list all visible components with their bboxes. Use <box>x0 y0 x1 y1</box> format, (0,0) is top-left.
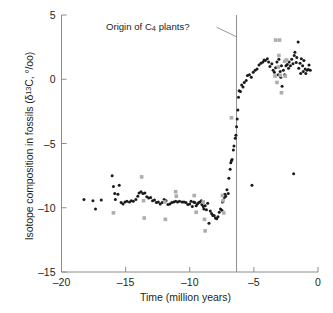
data-point-square <box>192 194 196 198</box>
data-point-circle <box>270 62 273 65</box>
origin-annotation: Origin of C4 plants? <box>106 21 190 33</box>
data-point-circle <box>234 137 237 140</box>
data-point-circle <box>143 191 146 194</box>
data-point-square <box>230 116 234 120</box>
data-point-circle <box>250 76 253 79</box>
data-point-circle <box>299 72 302 75</box>
data-point-square <box>203 218 207 222</box>
series-gray-squares <box>112 38 289 232</box>
data-point-circle <box>277 58 280 61</box>
data-point-circle <box>207 222 210 225</box>
data-point-square <box>140 175 144 179</box>
data-point-circle <box>236 118 239 121</box>
data-point-circle <box>250 184 253 187</box>
data-point-circle <box>290 58 293 61</box>
x-tick-label: –15 <box>117 276 135 288</box>
data-point-square <box>174 190 178 194</box>
data-point-circle <box>287 67 290 70</box>
y-tick-label: –5 <box>44 138 56 150</box>
data-point-square <box>163 200 167 204</box>
data-point-circle <box>273 71 276 74</box>
data-point-circle <box>100 199 103 202</box>
data-point-circle <box>301 64 304 67</box>
data-point-circle <box>286 63 289 66</box>
data-point-square <box>221 194 225 198</box>
data-point-square <box>174 194 178 198</box>
data-point-circle <box>229 168 232 171</box>
data-point-circle <box>82 198 85 201</box>
data-point-circle <box>293 51 296 54</box>
data-point-circle <box>300 57 303 60</box>
x-tick-label: –5 <box>248 276 260 288</box>
data-point-circle <box>241 85 244 88</box>
data-point-circle <box>118 184 121 187</box>
data-point-circle <box>114 198 117 201</box>
data-point-circle <box>280 64 283 67</box>
data-point-square <box>285 58 289 62</box>
data-point-circle <box>282 69 285 72</box>
data-point-square <box>273 74 277 78</box>
data-point-circle <box>136 195 139 198</box>
data-point-circle <box>267 60 270 63</box>
data-point-circle <box>308 64 311 67</box>
data-point-square <box>142 199 146 203</box>
data-point-circle <box>239 90 242 93</box>
x-tick-label: 0 <box>315 276 321 288</box>
data-point-circle <box>125 200 128 203</box>
data-point-circle <box>132 200 135 203</box>
annotation-leader-line <box>217 27 237 37</box>
data-point-square <box>221 199 225 203</box>
data-point-circle <box>218 211 221 214</box>
data-point-square <box>277 54 281 58</box>
data-point-circle <box>235 125 238 128</box>
data-point-circle <box>206 202 209 205</box>
data-point-square <box>274 38 278 42</box>
data-point-circle <box>281 85 284 88</box>
data-point-circle <box>232 145 235 148</box>
data-point-circle <box>190 200 193 203</box>
data-point-circle <box>236 109 239 112</box>
data-point-circle <box>302 59 305 62</box>
data-point-square <box>283 74 287 78</box>
data-point-circle <box>149 196 152 199</box>
data-point-circle <box>289 64 292 67</box>
data-point-circle <box>209 209 212 212</box>
data-point-circle <box>297 40 300 43</box>
data-point-circle <box>295 56 298 59</box>
data-point-square <box>276 65 280 69</box>
data-point-circle <box>113 192 116 195</box>
data-point-circle <box>94 208 97 211</box>
x-axis-label-text: Time (million years) <box>102 291 231 303</box>
data-point-circle <box>191 205 194 208</box>
data-point-circle <box>279 70 282 73</box>
data-point-square <box>278 38 282 42</box>
data-point-circle <box>213 214 216 217</box>
data-point-circle <box>202 208 205 211</box>
scatter-plot: –20–15–10–50–15–10–505 <box>0 0 333 313</box>
data-point-circle <box>292 172 295 175</box>
data-point-circle <box>204 204 207 207</box>
data-point-circle <box>234 134 237 137</box>
data-point-circle <box>111 174 114 177</box>
data-point-square <box>142 216 146 220</box>
data-point-circle <box>116 193 119 196</box>
y-tick-label: –10 <box>38 202 56 214</box>
data-point-circle <box>237 96 240 99</box>
data-point-square <box>201 200 205 204</box>
data-point-circle <box>248 73 251 76</box>
data-point-circle <box>193 201 196 204</box>
data-point-circle <box>112 185 115 188</box>
data-point-circle <box>134 198 137 201</box>
data-point-circle <box>268 65 271 68</box>
data-point-circle <box>302 70 305 73</box>
data-point-circle <box>304 72 307 75</box>
data-point-square <box>203 229 207 233</box>
annotation-prefix: Origin of C <box>106 21 152 32</box>
data-point-circle <box>291 62 294 65</box>
y-tick-label: –15 <box>38 266 56 278</box>
data-point-circle <box>188 202 191 205</box>
data-point-square <box>194 210 198 214</box>
data-point-circle <box>297 67 300 70</box>
data-point-circle <box>232 148 235 151</box>
data-point-circle <box>153 199 156 202</box>
